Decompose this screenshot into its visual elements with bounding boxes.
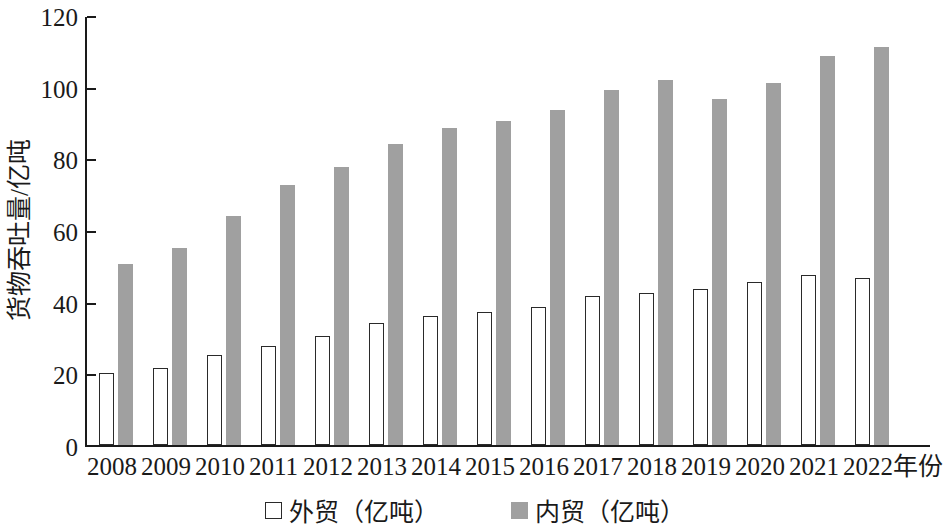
bar-waimao [153, 368, 168, 445]
x-axis-tick-label: 2009 [141, 452, 191, 482]
bar-waimao [99, 373, 114, 445]
legend-item: 外贸（亿吨） [265, 492, 439, 527]
bar-neimao [712, 99, 727, 445]
x-axis-tick-label: 2016 [519, 452, 569, 482]
bar-neimao [874, 47, 889, 445]
legend-item: 内贸（亿吨） [511, 492, 685, 527]
x-axis-tick-label: 2022年份 [843, 452, 943, 482]
x-axis-title: 年份 [893, 453, 943, 480]
bar-waimao [801, 275, 816, 445]
bar-waimao [369, 323, 384, 445]
bar-waimao [261, 346, 276, 445]
x-axis-tick-label: 2013 [357, 452, 407, 482]
open-square-swatch [265, 502, 282, 519]
y-axis-tick-mark [87, 88, 96, 90]
y-axis-tick-label: 80 [24, 148, 78, 173]
bar-neimao [820, 56, 835, 445]
chart-legend: 外贸（亿吨）内贸（亿吨） [0, 492, 950, 527]
bar-waimao [585, 296, 600, 445]
bar-neimao [496, 121, 511, 445]
x-axis-tick-label: 2012 [303, 452, 353, 482]
x-axis-line [85, 445, 930, 447]
bar-waimao [855, 278, 870, 445]
x-axis-tick-labels: 2008200920102011201220132014201520162017… [85, 452, 950, 488]
bar-neimao [550, 110, 565, 445]
y-axis-tick-mark [87, 159, 96, 161]
x-axis-tick-label: 2011 [249, 452, 298, 482]
x-axis-tick-label: 2021 [789, 452, 839, 482]
bar-waimao [531, 307, 546, 445]
bar-neimao [766, 83, 781, 445]
x-axis-tick-label: 2019 [681, 452, 731, 482]
y-axis-tick-mark [87, 16, 96, 18]
bar-waimao [423, 316, 438, 445]
bar-waimao [747, 282, 762, 445]
x-axis-tick-label: 2018 [627, 452, 677, 482]
x-axis-tick-label: 2015 [465, 452, 515, 482]
bar-neimao [658, 80, 673, 446]
bar-waimao [477, 312, 492, 445]
bar-neimao [172, 248, 187, 445]
y-axis-tick-label: 0 [24, 435, 78, 460]
bar-chart-figure: 货物吞吐量/亿吨 020406080100120 200820092010201… [0, 0, 950, 527]
y-axis-tick-mark [87, 374, 96, 376]
y-axis-tick-label: 120 [24, 5, 78, 30]
y-axis-tick-mark [87, 231, 96, 233]
y-axis-tick-label: 60 [24, 220, 78, 245]
plot-area [85, 17, 930, 447]
x-axis-tick-label: 2020 [735, 452, 785, 482]
bar-neimao [226, 216, 241, 445]
bar-neimao [442, 128, 457, 445]
bar-neimao [388, 144, 403, 445]
bar-neimao [604, 90, 619, 445]
legend-item-label: 内贸（亿吨） [535, 492, 685, 527]
bar-waimao [315, 336, 330, 445]
bar-waimao [639, 293, 654, 445]
y-axis-tick-label: 40 [24, 291, 78, 316]
bar-neimao [118, 264, 133, 445]
filled-square-swatch [511, 502, 528, 519]
x-axis-tick-label: 2017 [573, 452, 623, 482]
y-axis-tick-label: 100 [24, 76, 78, 101]
x-axis-tick-label: 2008 [87, 452, 137, 482]
legend-item-label: 外贸（亿吨） [289, 492, 439, 527]
x-axis-tick-label: 2010 [195, 452, 245, 482]
bar-waimao [693, 289, 708, 445]
bar-waimao [207, 355, 222, 445]
x-axis-tick-label: 2014 [411, 452, 461, 482]
y-axis-tick-labels: 020406080100120 [24, 0, 78, 460]
y-axis-tick-mark [87, 303, 96, 305]
bar-neimao [280, 185, 295, 445]
y-axis-tick-label: 20 [24, 363, 78, 388]
bar-neimao [334, 167, 349, 445]
